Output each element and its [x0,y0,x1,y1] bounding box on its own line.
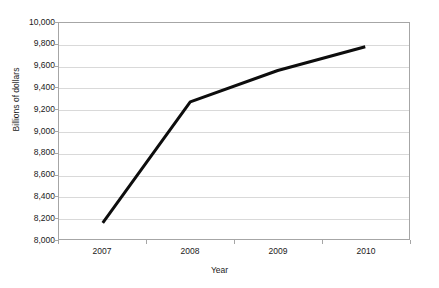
y-axis-tick-label: 9,000 [3,127,55,136]
y-axis-tick-label: 8,000 [3,236,55,245]
x-axis-tick-label: 2008 [160,247,220,256]
y-axis-tick-label: 9,600 [3,61,55,70]
series-layer [59,23,409,239]
x-axis-tick-mark [322,240,323,244]
y-axis-title: Billions of dollars [12,40,21,160]
x-axis-tick-mark [146,240,147,244]
y-axis-tick-label: 9,200 [3,105,55,114]
line-chart: Billions of dollars 8,0008,2008,4008,600… [0,0,439,288]
x-axis-tick-mark [234,240,235,244]
x-axis-tick-label: 2009 [248,247,308,256]
x-axis-title: Year [0,266,439,275]
x-axis-tick-mark [410,240,411,244]
x-axis-tick-label: 2010 [336,247,396,256]
y-axis-tick-label: 9,800 [3,39,55,48]
x-axis-tick-mark [58,240,59,244]
x-axis-tick-label: 2007 [72,247,132,256]
y-axis-tick-label: 8,800 [3,148,55,157]
y-axis-tick-label: 8,400 [3,192,55,201]
y-axis-tick-label: 8,600 [3,170,55,179]
series-line [103,47,366,223]
y-axis-tick-label: 8,200 [3,214,55,223]
plot-area [58,22,410,240]
y-axis-tick-label: 10,000 [3,18,55,27]
y-axis-tick-label: 9,400 [3,83,55,92]
